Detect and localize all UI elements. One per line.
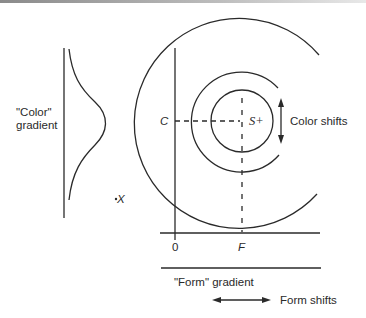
s-plus-label: S+ bbox=[249, 114, 264, 128]
form-shifts-arrow bbox=[212, 297, 271, 303]
color-shifts-arrow bbox=[278, 98, 284, 144]
middle-generalization-arc bbox=[191, 72, 279, 172]
color-gradient-label-line2: gradient bbox=[16, 118, 58, 132]
c-axis-label: C bbox=[160, 114, 168, 128]
x-point-label: X bbox=[117, 192, 125, 206]
color-gradient-label-line1: "Color" bbox=[16, 105, 52, 119]
color-shifts-label: Color shifts bbox=[290, 114, 348, 128]
color-gradient-curve bbox=[69, 49, 106, 200]
origin-label: 0 bbox=[172, 240, 178, 254]
f-axis-label: F bbox=[238, 240, 245, 254]
form-shifts-label: Form shifts bbox=[280, 293, 337, 307]
form-gradient-label: "Form" gradient bbox=[174, 275, 254, 289]
generalization-diagram bbox=[0, 0, 366, 318]
